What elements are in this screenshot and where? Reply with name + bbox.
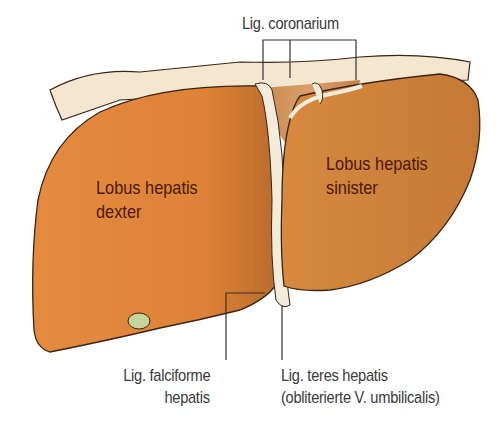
label-lobus-sinister-line1: Lobus hepatis — [326, 152, 428, 176]
label-lig-teres-line1: Lig. teres hepatis — [281, 366, 388, 386]
liver-illustration — [0, 0, 503, 422]
label-lig-falciforme-line2: hepatis — [165, 388, 210, 408]
label-lobus-dexter-line2: dexter — [96, 200, 141, 224]
gallbladder — [128, 313, 150, 329]
liver-anatomy-diagram: Lig. coronarium Lobus hepatis dexter Lob… — [0, 0, 503, 422]
label-lobus-sinister-line2: sinister — [326, 176, 378, 200]
label-lig-coronarium: Lig. coronarium — [242, 14, 339, 34]
label-lobus-dexter-line1: Lobus hepatis — [96, 176, 198, 200]
lobus-sinister-shape — [281, 74, 479, 291]
label-lig-teres-line2: (obliterierte V. umbilicalis) — [281, 388, 440, 408]
label-lig-falciforme-line1: Lig. falciforme — [123, 366, 210, 386]
lobus-dexter-shape — [33, 86, 281, 352]
